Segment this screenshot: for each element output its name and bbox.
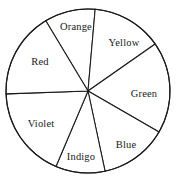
pie-slice-label-indigo: Indigo xyxy=(67,152,95,163)
pie-slice-label-blue: Blue xyxy=(116,140,136,151)
pie-slice-label-red: Red xyxy=(31,57,48,68)
pie-chart: OrangeYellowGreenBlueIndigoVioletRed xyxy=(0,0,177,186)
pie-slice-label-yellow: Yellow xyxy=(109,38,140,49)
pie-slice-label-green: Green xyxy=(131,89,157,100)
pie-slice-label-orange: Orange xyxy=(60,22,92,33)
pie-slice-label-violet: Violet xyxy=(28,119,55,130)
